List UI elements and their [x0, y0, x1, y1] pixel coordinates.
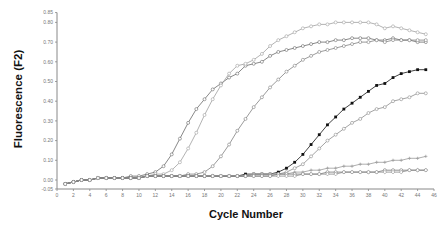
- data-point: [367, 112, 370, 115]
- data-point: [310, 43, 313, 46]
- data-point: [219, 155, 222, 158]
- data-point: [400, 72, 403, 75]
- data-point: [318, 133, 321, 136]
- data-point: [342, 39, 345, 42]
- data-point: [203, 98, 206, 101]
- y-tick-label: 0.30: [43, 118, 53, 124]
- y-tick-label: 0.60: [43, 59, 53, 65]
- x-ticks: 0246810121416182022242628303234363840424…: [56, 189, 437, 198]
- data-point: [424, 92, 427, 95]
- data-point: [392, 100, 395, 103]
- data-point: [334, 116, 337, 119]
- data-point: [228, 76, 231, 79]
- data-point: [269, 86, 272, 89]
- data-point: [260, 52, 263, 55]
- y-tick-label: 0.70: [43, 39, 53, 45]
- y-tick-label: -0.05: [42, 186, 54, 192]
- data-point: [400, 98, 403, 101]
- data-point: [416, 68, 419, 71]
- data-point: [408, 157, 411, 160]
- x-tick-label: 20: [218, 192, 224, 198]
- data-point: [416, 31, 419, 34]
- x-tick-label: 46: [431, 192, 437, 198]
- x-tick-label: 4: [88, 192, 91, 198]
- data-point: [383, 41, 386, 44]
- data-point: [424, 39, 427, 42]
- y-tick-label: 0.40: [43, 98, 53, 104]
- data-point: [178, 161, 181, 164]
- data-point: [301, 153, 304, 156]
- data-point: [318, 169, 321, 172]
- data-point: [408, 39, 411, 42]
- series-line: [65, 70, 426, 184]
- data-point: [351, 121, 354, 124]
- data-point: [318, 41, 321, 44]
- series-line: [65, 40, 426, 184]
- data-point: [269, 45, 272, 48]
- data-point: [383, 106, 386, 109]
- y-axis-title: Fluorescence (F2): [12, 50, 24, 149]
- data-point: [236, 72, 239, 75]
- data-point: [334, 21, 337, 24]
- y-ticks: -0.050.000.100.200.300.400.500.600.700.8…: [42, 9, 57, 191]
- data-point: [359, 21, 362, 24]
- data-point: [301, 27, 304, 30]
- series-sample-b: [64, 21, 428, 186]
- data-point: [187, 121, 190, 124]
- x-tick-label: 36: [349, 192, 355, 198]
- data-point: [309, 169, 312, 172]
- y-tick-label: 0.50: [43, 78, 53, 84]
- data-point: [252, 106, 255, 109]
- data-point: [391, 159, 394, 162]
- y-tick-label: 0.00: [43, 177, 53, 183]
- data-point: [269, 54, 272, 57]
- data-point: [326, 48, 329, 51]
- x-tick-label: 18: [202, 192, 208, 198]
- data-point: [375, 39, 378, 42]
- data-point: [310, 155, 313, 158]
- data-point: [342, 21, 345, 24]
- data-point: [408, 29, 411, 32]
- data-point: [351, 37, 354, 40]
- data-point: [228, 143, 231, 146]
- data-point: [285, 35, 288, 38]
- data-point: [293, 64, 296, 67]
- x-tick-label: 38: [366, 192, 372, 198]
- data-point: [260, 96, 263, 99]
- axes: -0.050.000.100.200.300.400.500.600.700.8…: [42, 9, 437, 198]
- data-point: [211, 88, 214, 91]
- x-tick-label: 44: [415, 192, 421, 198]
- data-point: [359, 37, 362, 40]
- data-point: [351, 21, 354, 24]
- data-point: [424, 68, 427, 71]
- data-point: [326, 123, 329, 126]
- data-point: [383, 161, 386, 164]
- x-tick-label: 32: [316, 192, 322, 198]
- qpcr-amplification-chart: -0.050.000.100.200.300.400.500.600.700.8…: [0, 0, 446, 229]
- data-point: [310, 54, 313, 57]
- series-line: [65, 156, 426, 184]
- series-line: [65, 93, 426, 184]
- data-point: [416, 92, 419, 95]
- data-point: [318, 147, 321, 150]
- data-point: [203, 171, 206, 174]
- x-tick-label: 28: [284, 192, 290, 198]
- data-point: [400, 159, 403, 162]
- data-point: [310, 143, 313, 146]
- data-point: [236, 129, 239, 132]
- series-line: [65, 22, 426, 184]
- data-point: [375, 23, 378, 26]
- data-point: [424, 155, 427, 158]
- data-point: [326, 167, 329, 170]
- data-point: [359, 117, 362, 120]
- data-point: [375, 84, 378, 87]
- data-point: [236, 64, 239, 67]
- data-point: [293, 31, 296, 34]
- data-point: [162, 165, 165, 168]
- data-point: [301, 58, 304, 61]
- data-point: [301, 45, 304, 48]
- data-point: [293, 167, 296, 170]
- x-tick-label: 42: [398, 192, 404, 198]
- data-point: [334, 133, 337, 136]
- y-tick-label: 0.80: [43, 19, 53, 25]
